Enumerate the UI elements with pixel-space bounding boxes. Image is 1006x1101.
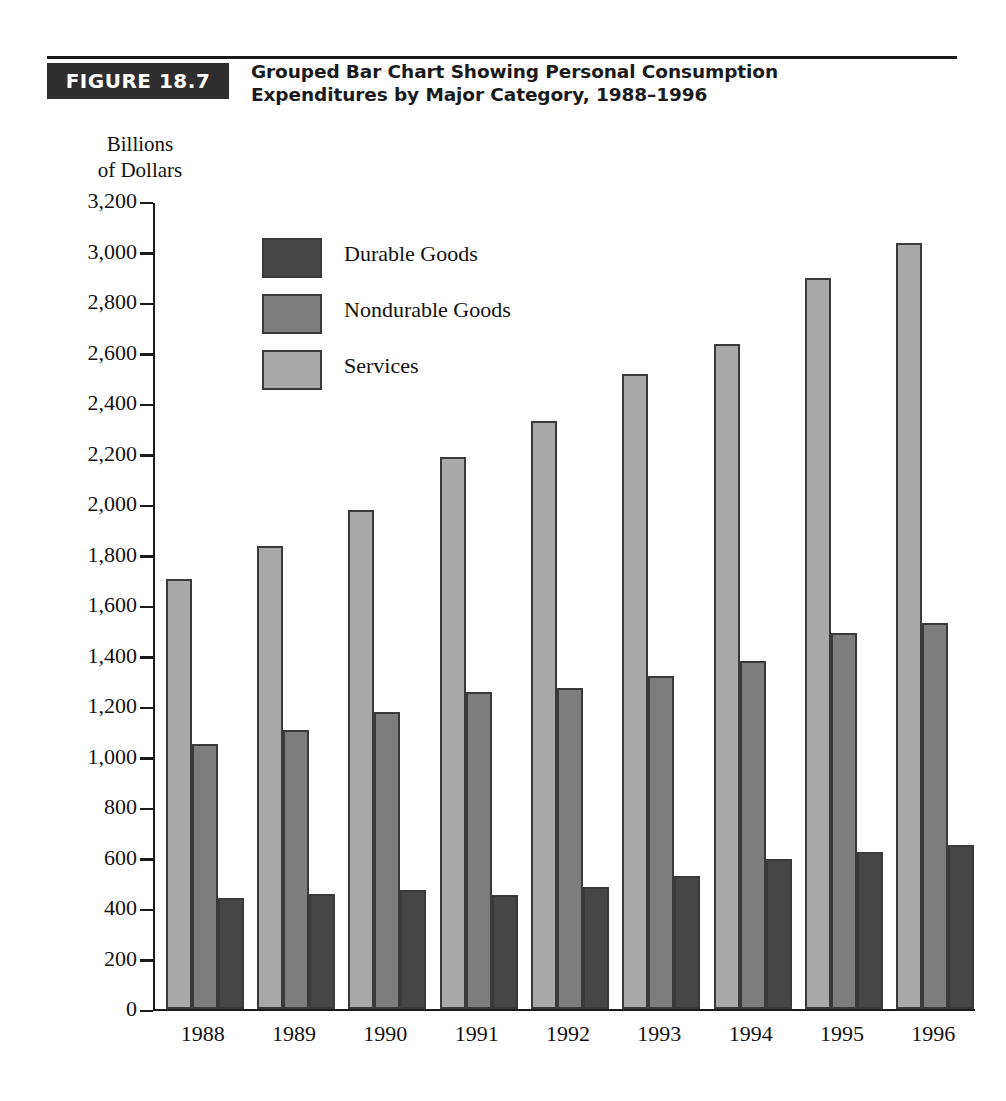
bar-1992-services (531, 421, 557, 1009)
bar-chart: 02004006008001,0001,2001,4001,6001,8002,… (0, 0, 1006, 1101)
y-axis-tick-label: 200 (22, 946, 137, 972)
y-axis-tick-label: 2,800 (22, 289, 137, 315)
y-axis-tick (140, 505, 153, 508)
legend-item-durable: Durable Goods (262, 236, 582, 292)
y-axis-tick (140, 656, 153, 659)
y-axis-tick-label: 2,200 (22, 441, 137, 467)
y-axis-tick-label: 2,000 (22, 491, 137, 517)
bar-1989-nondurable-goods (283, 730, 309, 1009)
bar-1990-services (348, 510, 374, 1009)
bar-1996-nondurable-goods (922, 623, 948, 1009)
bar-1989-durable-goods (309, 894, 335, 1009)
y-axis-tick-label: 3,200 (22, 188, 137, 214)
y-axis-tick (140, 707, 153, 710)
y-axis-tick-label: 400 (22, 895, 137, 921)
y-axis-tick (140, 353, 153, 356)
y-axis-tick (140, 252, 153, 255)
bar-1994-durable-goods (766, 859, 792, 1009)
y-axis-tick (140, 303, 153, 306)
bar-1992-durable-goods (583, 887, 609, 1009)
y-axis-tick-label: 1,400 (22, 643, 137, 669)
y-axis-tick-label: 3,000 (22, 239, 137, 265)
legend-swatch-nondurable (262, 294, 322, 334)
y-axis-tick-label: 2,600 (22, 340, 137, 366)
y-axis-tick (140, 454, 153, 457)
bar-1993-durable-goods (674, 876, 700, 1009)
x-axis-tick-label: 1996 (878, 1021, 988, 1047)
bar-1993-services (622, 374, 648, 1009)
bar-1994-nondurable-goods (740, 661, 766, 1009)
chart-legend: Durable GoodsNondurable GoodsServices (262, 236, 582, 404)
bar-1991-durable-goods (492, 895, 518, 1009)
bar-1988-services (166, 579, 192, 1010)
bar-1993-nondurable-goods (648, 676, 674, 1009)
y-axis-tick (140, 1010, 153, 1013)
bar-1990-durable-goods (400, 890, 426, 1009)
legend-label-durable: Durable Goods (344, 241, 478, 267)
y-axis-tick (140, 909, 153, 912)
bar-1994-services (714, 344, 740, 1009)
legend-item-nondurable: Nondurable Goods (262, 292, 582, 348)
y-axis-tick-label: 1,000 (22, 744, 137, 770)
bar-1991-services (440, 457, 466, 1009)
y-axis-tick-label: 2,400 (22, 390, 137, 416)
y-axis-tick-label: 1,600 (22, 592, 137, 618)
bar-1996-durable-goods (948, 845, 974, 1009)
legend-swatch-services (262, 350, 322, 390)
bar-1992-nondurable-goods (557, 688, 583, 1009)
y-axis-tick (140, 757, 153, 760)
y-axis-tick-label: 600 (22, 845, 137, 871)
y-axis-tick (140, 606, 153, 609)
y-axis-tick-label: 800 (22, 794, 137, 820)
bar-1991-nondurable-goods (466, 692, 492, 1009)
y-axis-tick (140, 959, 153, 962)
bar-1989-services (257, 546, 283, 1009)
bar-1995-services (805, 278, 831, 1009)
legend-swatch-durable (262, 238, 322, 278)
legend-label-nondurable: Nondurable Goods (344, 297, 511, 323)
bar-1995-nondurable-goods (831, 633, 857, 1009)
bar-1988-durable-goods (218, 898, 244, 1009)
bar-1995-durable-goods (857, 852, 883, 1009)
y-axis-tick-label: 1,800 (22, 542, 137, 568)
y-axis-tick-label: 1,200 (22, 693, 137, 719)
legend-label-services: Services (344, 353, 419, 379)
y-axis-tick (140, 202, 153, 205)
y-axis-tick (140, 555, 153, 558)
y-axis-tick (140, 808, 153, 811)
bar-1996-services (896, 243, 922, 1009)
legend-item-services: Services (262, 348, 582, 404)
y-axis-tick (140, 404, 153, 407)
bar-1988-nondurable-goods (192, 744, 218, 1009)
bar-1990-nondurable-goods (374, 712, 400, 1009)
y-axis-tick (140, 858, 153, 861)
y-axis-tick-label: 0 (22, 996, 137, 1022)
